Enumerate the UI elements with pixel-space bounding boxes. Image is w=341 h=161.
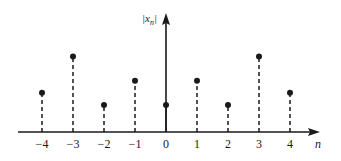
x-tick-label: 2	[225, 137, 231, 151]
stem-marker	[194, 78, 200, 84]
y-axis-label: |xn|	[142, 12, 157, 27]
stem-marker	[132, 78, 138, 84]
x-tick-labels: −4−3−2−101234	[36, 137, 293, 151]
x-tick-label: −2	[98, 137, 111, 151]
stem-marker	[225, 102, 231, 108]
stem-marker	[287, 90, 293, 96]
x-tick-label: −1	[129, 137, 142, 151]
x-axis-label: n	[315, 137, 321, 151]
x-tick-label: 0	[163, 137, 169, 151]
x-tick-label: 4	[287, 137, 293, 151]
x-tick-label: −3	[67, 137, 80, 151]
stem-marker	[101, 102, 107, 108]
stem-marker	[70, 53, 76, 59]
stem-marker	[39, 90, 45, 96]
stem-marker	[256, 53, 262, 59]
x-tick-label: −4	[36, 137, 49, 151]
x-tick-label: 1	[194, 137, 200, 151]
stem-plot: −4−3−2−101234 n |xn|	[0, 0, 341, 161]
x-tick-label: 3	[256, 137, 262, 151]
